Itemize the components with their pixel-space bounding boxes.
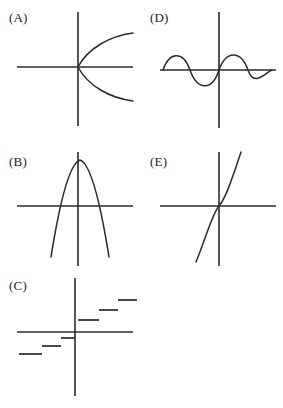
figure-sheet: (A) (D) (B) <box>0 0 283 408</box>
panel-c-step-segments <box>19 300 137 354</box>
panel-c-plot <box>0 0 283 408</box>
